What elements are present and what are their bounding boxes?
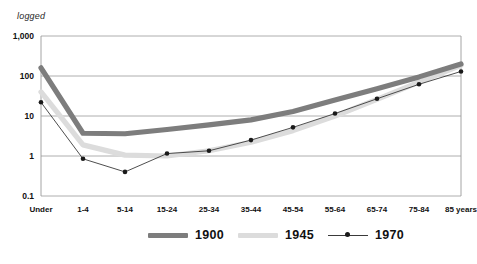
series-line-1945 — [41, 65, 461, 156]
legend-swatch-1970-icon — [328, 230, 368, 241]
legend-item-1900[interactable]: 1900 — [148, 228, 238, 242]
series-marker-1970 — [291, 125, 296, 130]
legend-swatch-1945-icon — [238, 233, 278, 238]
chart-legend: 1900 1945 1970 — [148, 228, 418, 242]
series-marker-1970 — [333, 111, 338, 116]
series-marker-1970 — [123, 170, 128, 175]
legend-swatch-1900-icon — [148, 233, 188, 238]
legend-label-1900: 1900 — [195, 228, 224, 242]
legend-label-1970: 1970 — [375, 228, 404, 242]
series-line-1900 — [41, 64, 461, 134]
legend-label-1945: 1945 — [285, 228, 314, 242]
legend-item-1970[interactable]: 1970 — [328, 228, 418, 242]
series-marker-1970 — [39, 100, 44, 105]
legend-item-1945[interactable]: 1945 — [238, 228, 328, 242]
series-marker-1970 — [375, 96, 380, 101]
series-marker-1970 — [249, 138, 254, 143]
series-marker-1970 — [459, 69, 464, 74]
series-marker-1970 — [207, 148, 212, 153]
series-marker-1970 — [417, 82, 422, 87]
series-marker-1970 — [165, 151, 170, 156]
series-marker-1970 — [81, 157, 86, 162]
